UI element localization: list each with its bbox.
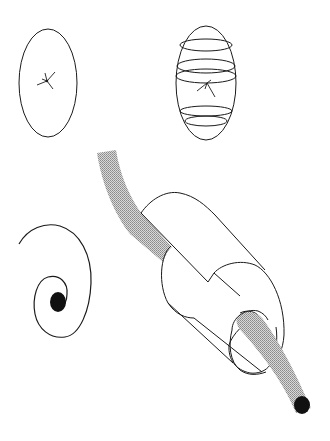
tube-end-dot xyxy=(294,396,310,414)
plain-ellipse-figure xyxy=(19,29,77,137)
band-3 xyxy=(176,69,236,83)
spiral-figure xyxy=(19,225,91,337)
tube-upper xyxy=(97,150,172,262)
band-5 xyxy=(185,116,227,126)
cylinder-lower-body xyxy=(162,246,262,372)
cylinder-lower-left-edge xyxy=(168,303,233,363)
spiral-end-dot xyxy=(50,292,66,312)
spiral-curve xyxy=(19,225,91,337)
split-cylinder-figure xyxy=(97,150,311,414)
band-4 xyxy=(180,106,232,116)
star-burst-icon xyxy=(37,72,55,89)
banded-ellipse-figure xyxy=(176,26,236,140)
band-1 xyxy=(180,39,232,51)
diagram-canvas xyxy=(0,0,330,441)
